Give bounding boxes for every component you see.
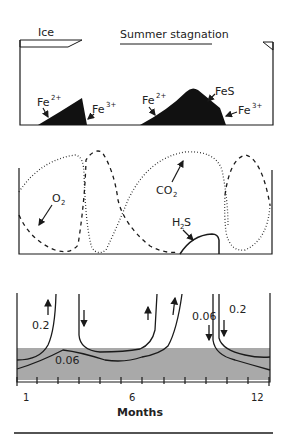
fe2-left-arrow: [43, 108, 48, 117]
fe2-right-sup: 2+: [156, 92, 166, 100]
fe3-right-arrow: [226, 112, 237, 116]
top-panel: Ice Summer stagnation Fe 2+ Fe 3+ Fe 2+ …: [20, 26, 273, 125]
co2-arrow: [172, 161, 183, 182]
ice-sheet-left: [20, 40, 82, 47]
fe3-left-sup: 3+: [106, 101, 116, 109]
arrow-up-3: [173, 298, 175, 315]
bottom-panel: 0.2 0.06 0.06 0.2 1 6 12 Months: [14, 293, 273, 433]
fe2-left-label: Fe: [37, 96, 50, 109]
fes-arrow: [208, 94, 215, 101]
label-02-right: 0.2: [229, 303, 247, 316]
fe3-right-sup: 3+: [252, 102, 262, 110]
h2s-curve: [180, 234, 219, 254]
lake-seasonal-diagram: Ice Summer stagnation Fe 2+ Fe 3+ Fe 2+ …: [0, 0, 289, 438]
ice-sheet-right: [263, 42, 273, 50]
fe3-left-arrow: [88, 114, 94, 119]
ice-label: Ice: [38, 26, 54, 39]
o2-arrow: [39, 205, 52, 225]
h2s-arrow: [183, 230, 193, 240]
x-tick-6: 6: [129, 392, 135, 403]
x-tick-1: 1: [23, 392, 29, 403]
isoline-02-middle: [79, 294, 157, 352]
h2s-s-label: S: [184, 216, 191, 229]
label-006-right: 0.06: [192, 310, 217, 323]
fe2-right-arrow: [149, 107, 155, 115]
middle-panel: O 2 CO 2 H 2 S: [19, 151, 272, 254]
o2-label: O: [52, 192, 61, 205]
co2-right-loop: [225, 195, 270, 250]
co2-label: CO: [156, 184, 173, 197]
x-tick-12: 12: [251, 392, 264, 403]
o2-sub: 2: [61, 199, 65, 207]
co2-sub: 2: [173, 191, 177, 199]
fe2-left-sup: 2+: [51, 94, 61, 102]
fes-label: FeS: [215, 85, 234, 98]
label-02-left: 0.2: [32, 319, 50, 332]
middle-panel-frame: [19, 168, 272, 254]
label-006-left: 0.06: [55, 354, 80, 367]
summer-stagnation-title: Summer stagnation: [120, 28, 229, 41]
fe3-right-label: Fe: [238, 104, 251, 117]
x-axis-label: Months: [117, 406, 163, 419]
fe2-right-label: Fe: [142, 94, 155, 107]
